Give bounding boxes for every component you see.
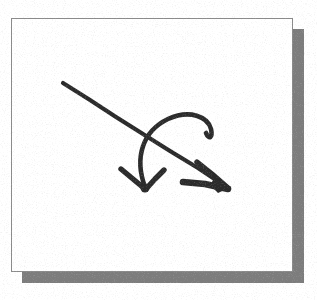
screenshot-root	[0, 0, 317, 300]
curved-arrow-tip	[141, 184, 150, 193]
curved-arrow-loop	[140, 114, 211, 187]
straight-arrow-shaft	[63, 83, 225, 186]
white-page-card	[11, 18, 293, 272]
arrow-drawing-canvas	[12, 19, 294, 273]
